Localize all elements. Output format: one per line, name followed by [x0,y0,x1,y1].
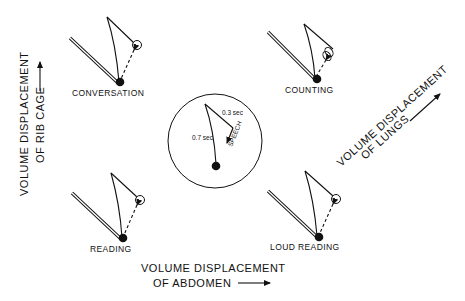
axis-rib-cage: VOLUME DISPLACEMENT OF RIB CAGE [18,51,46,196]
legend-border [168,94,262,188]
speech-onset-circle [133,41,142,50]
panel-label-conversation: CONVERSATION [72,88,144,98]
rest-point [212,162,221,171]
expiration-time-label: 0.3 sec [222,109,244,116]
speech-onset-circle [323,46,334,58]
axis-abdomen: VOLUME DISPLACEMENT OF ABDOMEN [141,262,286,289]
axis-rib-cage-line2: OF RIB CAGE [34,87,46,163]
panel-loud-reading: LOUD READING [268,171,341,252]
panel-conversation: CONVERSATION [70,17,144,98]
panel-counting: COUNTING [268,24,335,95]
panel-label-reading: READING [90,244,132,254]
legend-circle: 0.3 sec 0.7 sec SPEECH [168,94,262,188]
axis-lungs-line1: VOLUME DISPLACEMENT [334,63,449,169]
panel-reading: READING [72,173,145,254]
panel-label-counting: COUNTING [285,85,334,95]
rest-point [116,78,125,87]
axis-abdomen-line2: OF ABDOMEN [153,277,231,289]
panel-label-loud-reading: LOUD READING [270,242,340,252]
respiratory-kinematics-diagram: CONVERSATION COUNTING READING LOUD READI… [0,0,465,301]
speech-path [121,50,134,79]
axis-abdomen-line1: VOLUME DISPLACEMENT [141,262,286,274]
inspiration-time-label: 0.7 sec [192,134,214,141]
axis-rib-cage-line1: VOLUME DISPLACEMENT [18,51,30,196]
axis-lungs: VOLUME DISPLACEMENT OF LUNGS [334,63,449,169]
